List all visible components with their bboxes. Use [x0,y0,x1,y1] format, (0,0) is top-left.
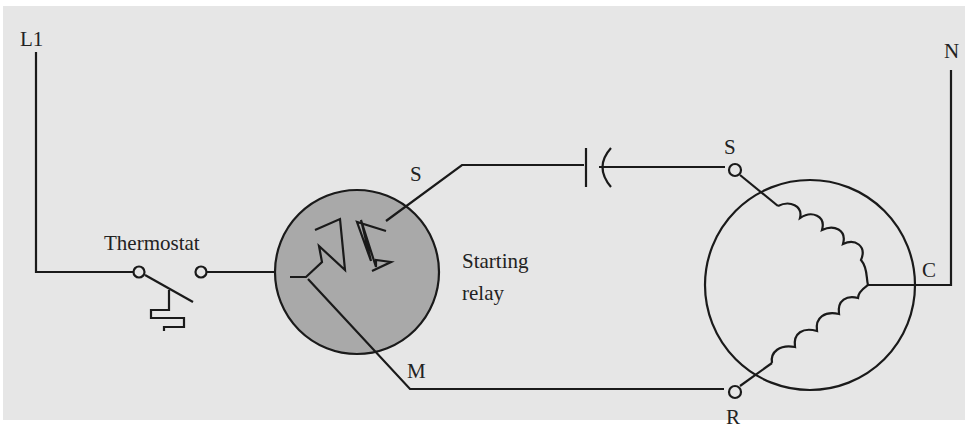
starting-relay [275,190,439,354]
label-motor-r: R [726,405,740,429]
label-thermostat: Thermostat [104,231,200,255]
label-n: N [944,39,959,63]
thermostat-contact-right [196,267,207,278]
thermostat-contact-left [134,267,145,278]
diagram-panel [3,6,965,420]
label-relay-name-2: relay [462,281,504,305]
motor-terminal-s [729,164,741,176]
relay-body [275,190,439,354]
label-motor-s: S [724,135,736,159]
label-relay-s: S [410,162,422,186]
label-relay-name-1: Starting [462,249,529,273]
label-relay-m: M [407,359,426,383]
wiring-diagram: L1 N Thermostat S M Starting relay S C R [0,0,972,440]
label-motor-c: C [922,258,936,282]
motor-terminal-r [729,386,741,398]
label-l1: L1 [20,27,43,51]
